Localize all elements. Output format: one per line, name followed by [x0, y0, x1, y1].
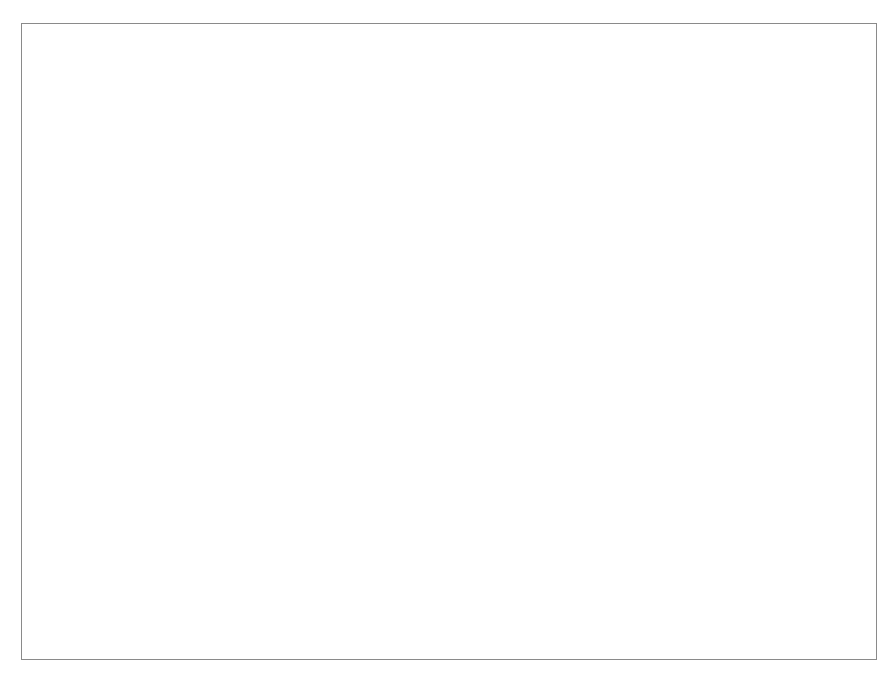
chart-page [0, 0, 892, 685]
figure-frame [21, 23, 877, 660]
